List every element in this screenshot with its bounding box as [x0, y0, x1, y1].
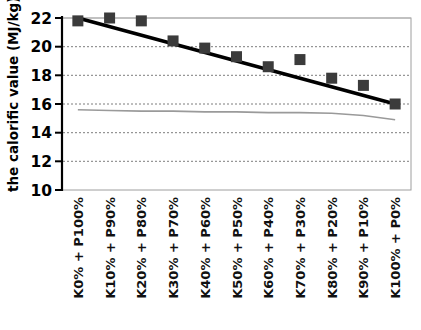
x-tick-label: K60% + P40% [261, 197, 276, 299]
x-tick-label: K40% + P60% [198, 197, 213, 299]
data-point-marker [199, 43, 210, 54]
y-axis-title-text: the calorific value (MJ/kg) [5, 0, 21, 192]
data-point-marker [390, 99, 401, 110]
chart-figure: 22 20 18 16 14 12 10 the calorific value… [0, 0, 421, 330]
x-tick-label: K100% + P0% [388, 197, 403, 299]
x-tick-label: K70% + P30% [293, 197, 308, 299]
data-point-marker [231, 51, 242, 62]
x-tick-label: K10% + P90% [103, 197, 118, 299]
data-point-marker [104, 13, 115, 24]
y-tick-label: 12 [30, 153, 52, 171]
data-point-marker [263, 61, 274, 72]
y-tick-label: 10 [30, 182, 52, 200]
x-tick-label: K90% + P10% [356, 197, 371, 299]
y-tick-label: 22 [30, 10, 52, 28]
data-point-marker [72, 15, 83, 26]
y-axis-title: the calorific value (MJ/kg) [5, 0, 21, 192]
x-tick-label: K0% + P100% [71, 197, 86, 299]
x-tick-label: K80% + P20% [325, 197, 340, 299]
x-tick-label: K20% + P80% [134, 197, 149, 299]
x-tick-label: K50% + P50% [230, 197, 245, 299]
y-tick-label: 18 [30, 67, 52, 85]
data-point-marker [358, 80, 369, 91]
y-tick-label: 16 [30, 96, 52, 114]
y-tick-label: 20 [30, 38, 52, 56]
data-point-marker [326, 73, 337, 84]
y-tick-label: 14 [30, 124, 52, 142]
data-point-marker [136, 15, 147, 26]
data-point-marker [294, 54, 305, 65]
data-point-marker [168, 35, 179, 46]
calorific-value-scatter-chart: 22 20 18 16 14 12 10 the calorific value… [0, 0, 421, 330]
x-tick-label: K30% + P70% [166, 197, 181, 299]
